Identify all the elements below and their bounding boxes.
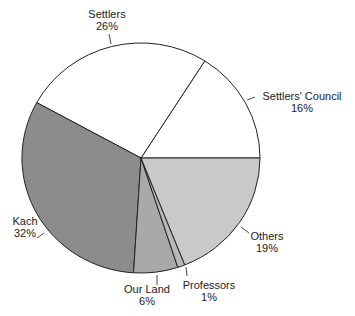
leader-line-professors xyxy=(186,267,187,276)
label-settlers: Settlers xyxy=(88,8,126,20)
leader-line-settlers xyxy=(109,34,111,44)
label-pct-kach: 32% xyxy=(14,227,36,239)
label-pct-settlers: 26% xyxy=(96,20,118,32)
leader-line-settlers-council xyxy=(247,97,255,100)
label-kach: Kach xyxy=(12,215,37,227)
label-pct-settlers-council: 16% xyxy=(291,102,313,114)
label-pct-others: 19% xyxy=(256,242,278,254)
label-professors: Professors xyxy=(183,279,236,291)
pie-slices xyxy=(22,43,260,273)
label-others: Others xyxy=(250,230,284,242)
pie-chart: Settlers' Council16%Settlers26%Kach32%Ou… xyxy=(0,0,355,316)
label-settlers-council: Settlers' Council xyxy=(262,90,341,102)
label-pct-our-land: 6% xyxy=(139,295,155,307)
leader-line-others xyxy=(241,227,249,233)
leader-line-kach xyxy=(37,233,44,238)
label-our-land: Our Land xyxy=(124,283,170,295)
label-pct-professors: 1% xyxy=(201,291,217,303)
